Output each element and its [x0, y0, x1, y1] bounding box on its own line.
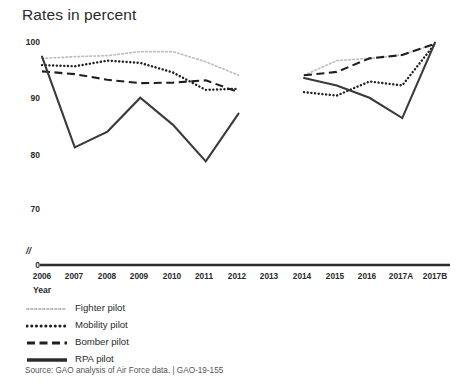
series-line-fighter-pilot: [42, 44, 435, 76]
legend-item-bomber-pilot: Bomber pilot: [26, 334, 256, 351]
legend-item-fighter-pilot: Fighter pilot: [26, 300, 256, 317]
source-note: Source: GAO analysis of Air Force data. …: [25, 366, 223, 375]
chart-legend: Fighter pilot Mobility pilot Bomber pilo…: [26, 300, 256, 368]
series-line-mobility-pilot: [42, 44, 435, 96]
dotted-line-icon: [26, 324, 68, 328]
dashed-line-icon: [26, 341, 68, 345]
light-dotted-line-icon: [26, 307, 68, 311]
legend-label-mobility-pilot: Mobility pilot: [75, 319, 128, 330]
plot-area: [0, 0, 463, 300]
legend-label-fighter-pilot: Fighter pilot: [75, 302, 125, 313]
series-line-bomber-pilot: [42, 44, 435, 92]
legend-item-mobility-pilot: Mobility pilot: [26, 317, 256, 334]
chart-page: Rates in percent 100 90 80 70 // 0 2006 …: [0, 0, 463, 385]
legend-label-bomber-pilot: Bomber pilot: [75, 336, 129, 347]
series-line-rpa-pilot: [42, 43, 435, 162]
series-group: [42, 43, 435, 162]
legend-label-rpa-pilot: RPA pilot: [75, 353, 114, 364]
solid-line-icon: [26, 358, 68, 362]
